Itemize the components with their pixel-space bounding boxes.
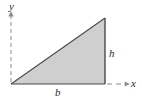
figure-canvas (0, 0, 142, 107)
y-axis-label: y (9, 1, 14, 12)
geometry-figure: y x h b (0, 0, 142, 107)
height-label: h (109, 48, 115, 59)
x-axis-arrowhead-icon (125, 81, 130, 86)
base-label: b (55, 87, 61, 98)
x-axis-label: x (131, 78, 136, 89)
